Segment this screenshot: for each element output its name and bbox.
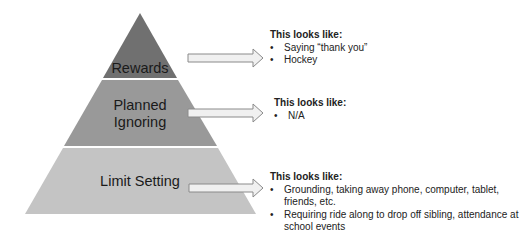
callout-planned-ignoring: This looks like: N/A — [274, 97, 434, 122]
list-item: Hockey — [270, 54, 450, 67]
list-item: Saying “thank you” — [270, 42, 450, 55]
callout-heading: This looks like: — [274, 97, 434, 110]
list-item: N/A — [274, 110, 434, 123]
callout-rewards: This looks like: Saying “thank you” Hock… — [270, 29, 450, 67]
level-label-line1: Planned — [90, 97, 190, 114]
callout-limit-setting: This looks like: Grounding, taking away … — [270, 171, 525, 232]
level-label-limit-setting: Limit Setting — [80, 173, 200, 190]
list-item: Grounding, taking away phone, computer, … — [270, 184, 525, 209]
callout-heading: This looks like: — [270, 171, 525, 184]
level-label-rewards: Rewards — [103, 60, 177, 77]
list-item: Requiring ride along to drop off sibling… — [270, 209, 525, 233]
level-label-planned-ignoring: Planned Ignoring — [90, 97, 190, 131]
callout-heading: This looks like: — [270, 29, 450, 42]
level-label-line2: Ignoring — [90, 114, 190, 131]
